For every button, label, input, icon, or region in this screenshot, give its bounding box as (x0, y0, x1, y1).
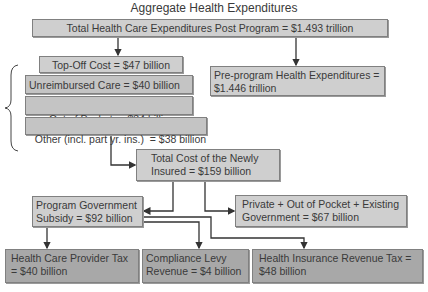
node-label: Pre-program Health Expenditures = $1.446… (214, 69, 379, 94)
node-label: Total Cost of the Newly Insured = $159 b… (151, 152, 258, 177)
node-top-off-cost: Top-Off Cost = $47 billion (39, 56, 183, 73)
node-provider-tax: Health Care Provider Tax = $40 billion (5, 249, 139, 283)
node-other: Other (incl. part yr. ins.) = $38 billio… (25, 117, 207, 135)
node-compliance-levy: Compliance Levy Revenue = $4 billion (142, 249, 249, 283)
node-label: Top-Off Cost = $47 billion (52, 59, 170, 71)
node-label: Private + Out of Pocket + Existing Gover… (242, 198, 399, 223)
node-pre-program: Pre-program Health Expenditures = $1.446… (210, 66, 385, 96)
node-total-post-program: Total Health Care Expenditures Post Prog… (32, 19, 388, 37)
node-label: Health Insurance Revenue Tax = $48 billi… (259, 252, 411, 277)
node-label: Unreimbursed Care = $40 billion (29, 79, 180, 91)
node-newly-insured: Total Cost of the Newly Insured = $159 b… (136, 149, 280, 181)
node-private-existing: Private + Out of Pocket + Existing Gover… (235, 195, 407, 227)
node-label: Program Government Subsidy = $92 billion (36, 199, 137, 224)
grouping-brace (5, 65, 18, 151)
node-label: Other (incl. part yr. ins.) = $38 billio… (35, 133, 206, 145)
node-insurance-tax: Health Insurance Revenue Tax = $48 billi… (252, 249, 423, 283)
node-out-of-pocket: Out of Pocket = $34 billion (25, 96, 193, 115)
node-label: Health Care Provider Tax = $40 billion (11, 252, 128, 277)
node-label: Total Health Care Expenditures Post Prog… (67, 22, 354, 34)
node-unreimbursed-care: Unreimbursed Care = $40 billion (25, 75, 193, 94)
node-program-subsidy: Program Government Subsidy = $92 billion (32, 196, 143, 227)
node-label: Compliance Levy Revenue = $4 billion (146, 252, 241, 277)
